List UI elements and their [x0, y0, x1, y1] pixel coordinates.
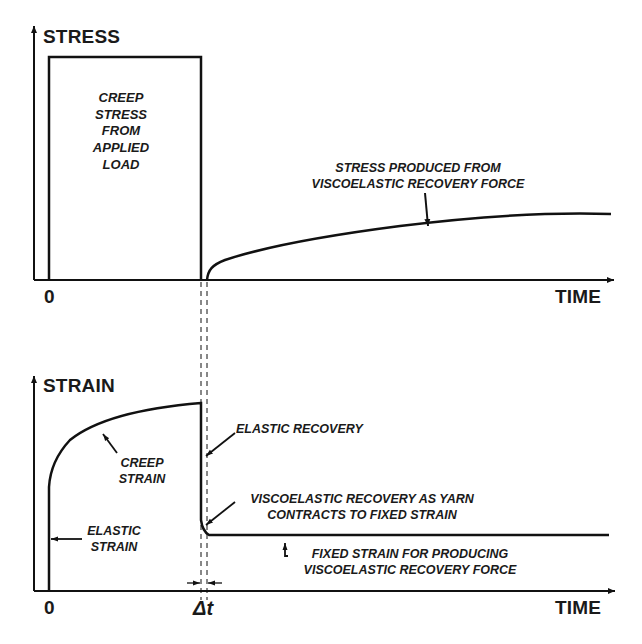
label-line: CREEP — [80, 90, 162, 107]
delta-t-label: Δt — [193, 597, 213, 620]
strain-time-label: TIME — [555, 597, 601, 619]
creep-stress-label: CREEP STRESS FROM APPLIED LOAD — [80, 90, 162, 174]
label-line: VISCOELASTIC RECOVERY FORCE — [290, 562, 530, 578]
elastic-recovery-arrow — [206, 433, 235, 456]
label-line: VISCOELASTIC RECOVERY AS YARN — [234, 491, 490, 507]
label-line: VISCOELASTIC RECOVERY FORCE — [298, 176, 538, 192]
stress-origin-label: 0 — [44, 286, 55, 308]
label-line: FIXED STRAIN FOR PRODUCING — [290, 546, 530, 562]
fixed-strain-arrow — [285, 543, 288, 556]
creep-strain-label: CREEP STRAIN — [112, 455, 172, 487]
label-line: STRAIN — [112, 471, 172, 487]
label-line: FROM — [80, 123, 162, 140]
recovery-stress-curve — [207, 214, 611, 281]
label-line: APPLIED — [80, 140, 162, 157]
viscoelastic-recovery-arrow — [206, 502, 235, 525]
label-line: STRESS PRODUCED FROM — [298, 160, 538, 176]
fixed-strain-label: FIXED STRAIN FOR PRODUCING VISCOELASTIC … — [290, 546, 530, 578]
label-line: STRESS — [80, 107, 162, 124]
viscoelastic-recovery-label: VISCOELASTIC RECOVERY AS YARN CONTRACTS … — [234, 491, 490, 523]
recovery-stress-label: STRESS PRODUCED FROM VISCOELASTIC RECOVE… — [298, 160, 538, 192]
label-line: CONTRACTS TO FIXED STRAIN — [234, 507, 490, 523]
label-line: LOAD — [80, 157, 162, 174]
label-line: STRAIN — [82, 539, 146, 555]
label-line: ELASTIC — [82, 523, 146, 539]
elastic-recovery-label: ELASTIC RECOVERY — [236, 421, 363, 437]
label-line: CREEP — [112, 455, 172, 471]
recovery-arrow — [425, 193, 428, 226]
elastic-strain-label: ELASTIC STRAIN — [82, 523, 146, 555]
strain-axis-label: STRAIN — [43, 375, 115, 397]
stress-time-label: TIME — [555, 286, 601, 308]
creep-strain-arrow — [103, 434, 117, 453]
strain-origin-label: 0 — [44, 597, 55, 619]
stress-axis-label: STRESS — [43, 26, 120, 48]
